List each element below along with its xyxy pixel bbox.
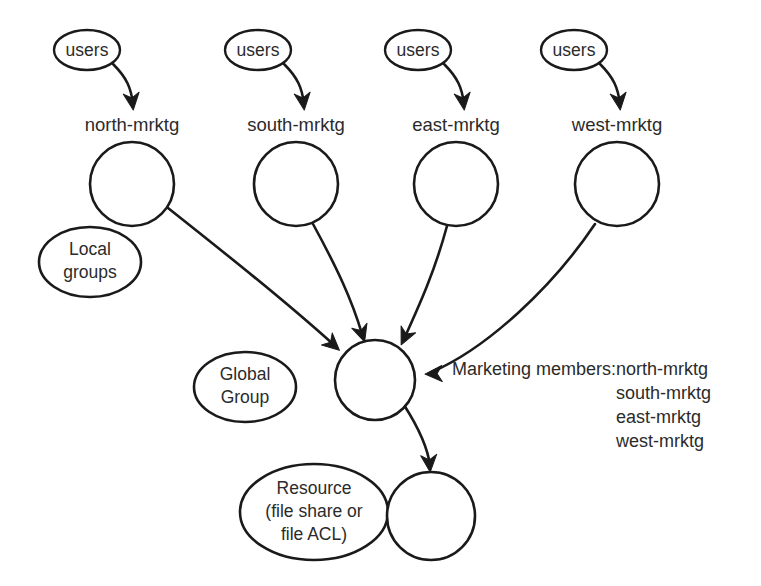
- callout-line: groups: [63, 262, 117, 282]
- north-mrktg-to-global-group: [168, 208, 334, 345]
- resource-callout: Resource(file share orfile ACL): [240, 464, 388, 560]
- users-source-node-3: users: [385, 30, 451, 70]
- callout-line: Global: [220, 364, 271, 384]
- users-label: users: [237, 40, 280, 60]
- local-group-label-south-mrktg: south-mrktg: [247, 114, 345, 135]
- arrow-head-icon: [394, 326, 416, 348]
- local-group-label-west-mrktg: west-mrktg: [571, 114, 662, 135]
- east-mrktg-to-global-group: [404, 226, 447, 339]
- arrow-head-icon: [425, 365, 443, 382]
- diagram-canvas: usersusersusersusers north-mrktgsouth-mr…: [0, 0, 761, 586]
- resource-node-layer: [387, 472, 475, 560]
- local-group-circle: [90, 142, 174, 226]
- resource-node: [387, 472, 475, 560]
- local-group-circle: [254, 142, 338, 226]
- legend-item-north-mrktg: north-mrktg: [616, 359, 708, 379]
- annotation-callouts-layer: LocalgroupsGlobalGroupResource(file shar…: [39, 227, 388, 560]
- callout-line: Local: [69, 239, 111, 259]
- user-source-nodes-layer: usersusersusersusers: [54, 30, 607, 70]
- local-group-node-west-mrktg: west-mrktg: [571, 114, 662, 226]
- users-label: users: [553, 40, 596, 60]
- users-label: users: [397, 40, 440, 60]
- callout-line: file ACL): [281, 524, 347, 544]
- users-source-node-1: users: [54, 30, 120, 70]
- global-group-callout: GlobalGroup: [194, 352, 296, 422]
- legend-item-south-mrktg: south-mrktg: [616, 383, 711, 403]
- local-group-circle: [414, 142, 498, 226]
- west-mrktg-to-global-group: [432, 224, 595, 372]
- local-group-node-north-mrktg: north-mrktg: [85, 114, 180, 226]
- south-mrktg-to-global-group: [313, 224, 362, 334]
- users-label: users: [66, 40, 109, 60]
- local-group-node-south-mrktg: south-mrktg: [247, 114, 345, 226]
- users-source-node-2: users: [225, 30, 291, 70]
- callout-line: Resource: [277, 478, 352, 498]
- local-group-circle: [575, 142, 659, 226]
- legend-title: Marketing members:: [452, 359, 616, 379]
- legend-layer: Marketing members:north-mrktgsouth-mrktg…: [452, 359, 711, 451]
- arrowhead-global-from-east: [394, 326, 416, 348]
- callout-line: (file share or: [265, 501, 362, 521]
- marketing-global-group: [335, 340, 415, 420]
- legend-item-east-mrktg: east-mrktg: [616, 407, 701, 427]
- users-source-node-4: users: [541, 30, 607, 70]
- arrowhead-global-from-west: [425, 365, 443, 382]
- global-group-node-layer: [335, 340, 415, 420]
- local-group-label-north-mrktg: north-mrktg: [85, 114, 180, 135]
- legend-item-west-mrktg: west-mrktg: [615, 431, 704, 451]
- local-group-label-east-mrktg: east-mrktg: [412, 114, 499, 135]
- global-group-to-resource: [404, 405, 430, 466]
- network-diagram: usersusersusersusers north-mrktgsouth-mr…: [0, 0, 761, 586]
- callout-line: Group: [221, 387, 270, 407]
- local-groups-callout: Localgroups: [39, 227, 141, 297]
- local-group-node-east-mrktg: east-mrktg: [412, 114, 499, 226]
